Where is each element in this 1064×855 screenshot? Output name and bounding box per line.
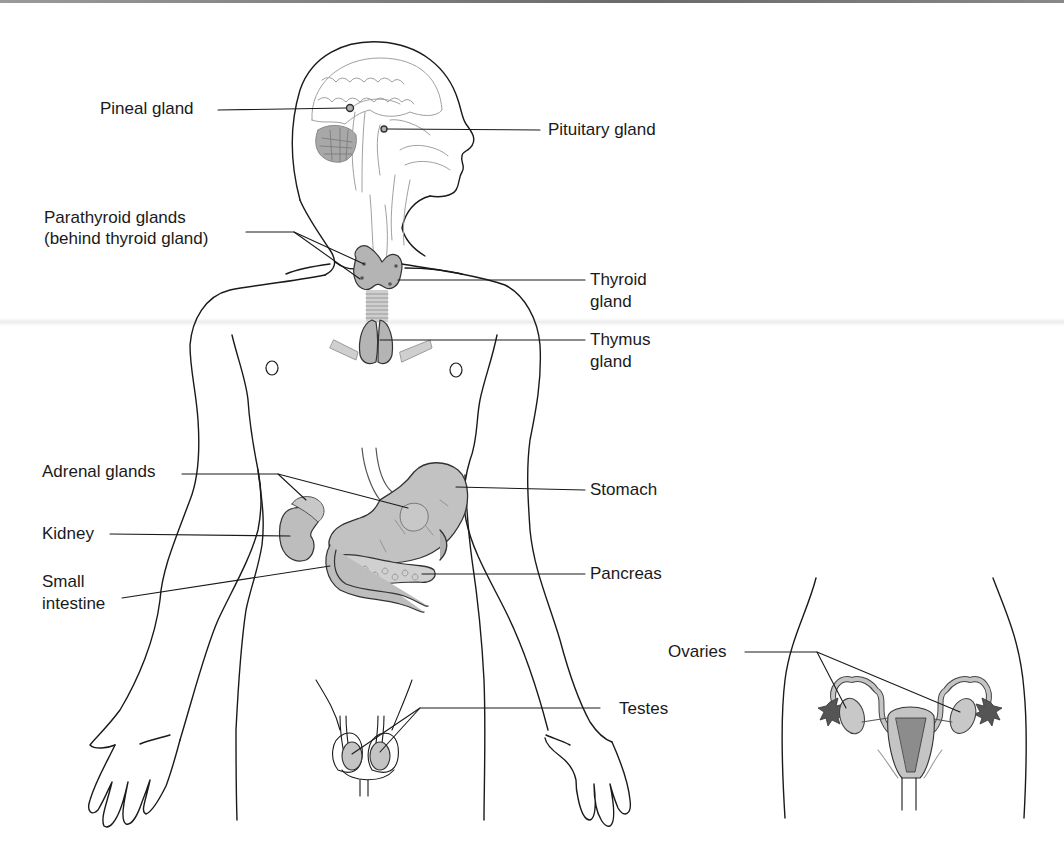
label-ovaries: Ovaries: [668, 642, 727, 662]
thyroid-gland: [354, 246, 402, 290]
label-pituitary-gland: Pituitary gland: [548, 120, 656, 140]
cerebellum: [316, 125, 357, 162]
label-parathyroid-note: (behind thyroid gland): [44, 229, 208, 249]
label-thyroid: Thyroid: [590, 270, 647, 290]
label-pancreas: Pancreas: [590, 564, 662, 584]
pituitary-gland: [381, 126, 387, 132]
endocrine-diagram: [0, 0, 1064, 855]
head-outline: [292, 42, 473, 275]
kidney: [280, 497, 324, 562]
esophagus: [362, 448, 392, 500]
label-thyroid-gland: gland: [590, 292, 632, 312]
label-thymus-gland: gland: [590, 352, 632, 372]
label-adrenal-glands: Adrenal glands: [42, 462, 155, 482]
label-testes: Testes: [619, 699, 668, 719]
leader-lines: [110, 108, 960, 754]
pineal-gland: [347, 105, 354, 112]
label-stomach: Stomach: [590, 480, 657, 500]
label-pineal-gland: Pineal gland: [100, 99, 194, 119]
label-parathyroid-glands: Parathyroid glands: [44, 208, 186, 228]
uterus-and-ovaries: [818, 679, 1002, 810]
label-small: Small: [42, 572, 85, 592]
male-genitalia: [316, 680, 412, 796]
label-intestine: intestine: [42, 594, 105, 614]
stomach: [329, 463, 468, 564]
label-kidney: Kidney: [42, 524, 94, 544]
label-thymus: Thymus: [590, 330, 650, 350]
thymus-gland: [360, 320, 393, 364]
